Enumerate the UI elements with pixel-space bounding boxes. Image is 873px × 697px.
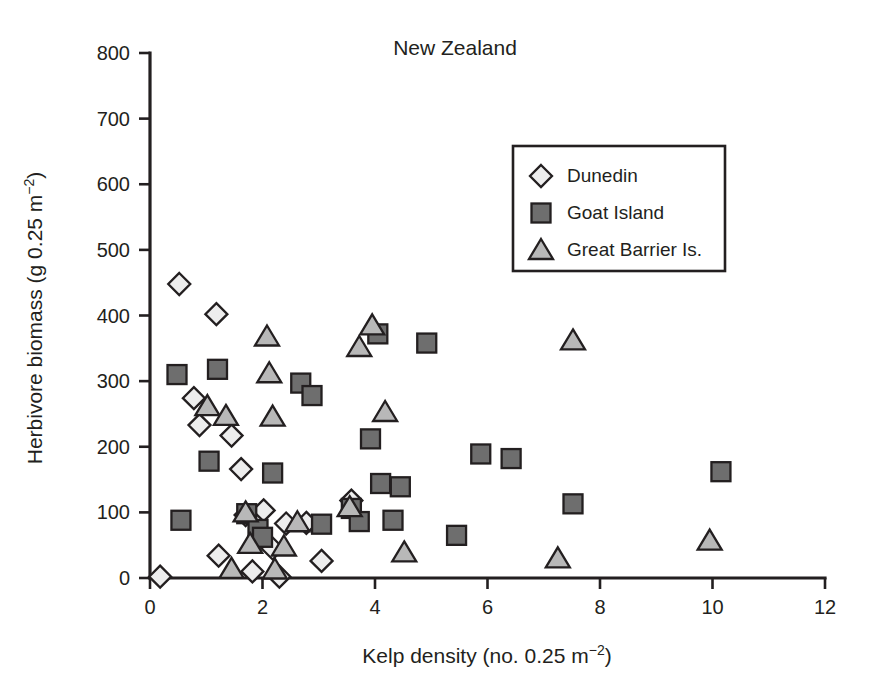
y-axis-tick-label: 400 (97, 305, 130, 327)
data-point-square (502, 449, 521, 468)
legend-label: Goat Island (567, 202, 664, 223)
y-axis-tick-label: 800 (97, 42, 130, 64)
chart-canvas: 0246810120100200300400500600700800 Duned… (0, 0, 873, 697)
x-axis-tick-label: 2 (257, 596, 268, 618)
data-point-diamond (208, 545, 230, 567)
data-point-diamond (149, 566, 171, 588)
data-point-square (208, 360, 227, 379)
y-axis-tick-label: 700 (97, 108, 130, 130)
x-axis-tick-label: 10 (701, 596, 723, 618)
y-axis-tick-label: 300 (97, 370, 130, 392)
data-point-triangle (257, 362, 281, 382)
data-point-square (200, 452, 219, 471)
data-point-square (384, 511, 403, 530)
data-point-square (171, 511, 190, 530)
data-point-diamond (230, 458, 252, 480)
data-point-square (303, 386, 322, 405)
data-point-square (361, 429, 380, 448)
data-point-square (417, 334, 436, 353)
x-axis-tick-label: 12 (814, 596, 836, 618)
data-point-square (471, 444, 490, 463)
x-axis-tick-label: 0 (144, 596, 155, 618)
y-axis-tick-label: 500 (97, 239, 130, 261)
y-axis-tick-label: 100 (97, 501, 130, 523)
x-axis-tick-label: 6 (482, 596, 493, 618)
data-point-triangle (546, 547, 570, 567)
scatter-plot-figure: 0246810120100200300400500600700800 Duned… (0, 0, 873, 697)
legend-label: Dunedin (567, 165, 638, 186)
data-point-diamond (311, 550, 333, 572)
data-point-triangle (698, 530, 722, 550)
y-axis-title: Herbivore biomass (g 0.25 m−2) (21, 172, 46, 465)
data-point-square (371, 474, 390, 493)
data-point-diamond (168, 273, 190, 295)
data-point-square (168, 365, 187, 384)
legend-label: Great Barrier Is. (567, 239, 702, 260)
x-axis-tick-label: 4 (369, 596, 380, 618)
chart-title: New Zealand (393, 36, 517, 59)
data-point-triangle (392, 541, 416, 561)
data-point-diamond (189, 414, 211, 436)
data-points (149, 273, 730, 588)
data-point-triangle (255, 326, 279, 346)
x-axis-tick-label: 8 (594, 596, 605, 618)
data-point-triangle (561, 329, 585, 349)
data-point-triangle (373, 401, 397, 421)
data-point-square (447, 526, 466, 545)
y-axis-tick-label: 0 (119, 567, 130, 589)
x-axis-title: Kelp density (no. 0.25 m−2) (362, 642, 611, 667)
data-point-square (263, 464, 282, 483)
data-point-square (564, 494, 583, 513)
y-axis-tick-label: 200 (97, 436, 130, 458)
x-axis-label-text: Kelp density (no. 0.25 m−2) (362, 642, 611, 667)
data-point-square (312, 515, 331, 534)
y-axis-tick-label: 600 (97, 173, 130, 195)
data-point-square (391, 477, 410, 496)
chart-legend: DunedinGoat IslandGreat Barrier Is. (513, 146, 725, 271)
y-axis-label-text: Herbivore biomass (g 0.25 m−2) (21, 172, 46, 465)
data-point-square (711, 462, 730, 481)
data-point-diamond (205, 303, 227, 325)
data-point-triangle (261, 406, 285, 426)
data-point-diamond (221, 425, 243, 447)
legend-marker-square (532, 204, 551, 223)
